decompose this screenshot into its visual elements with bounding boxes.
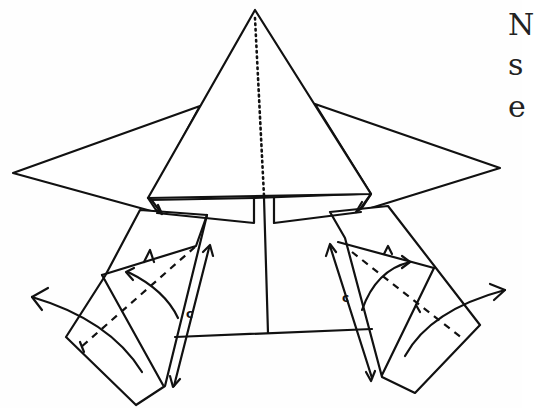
right-lower-flap <box>326 206 505 393</box>
side-text-line-1: N <box>508 10 534 40</box>
side-text-line-2: s <box>508 50 523 80</box>
right-c-label: c <box>342 291 349 305</box>
side-text-line-3: e <box>508 92 526 122</box>
left-c-label: c <box>186 307 193 321</box>
top-triangle-flap <box>148 10 371 198</box>
